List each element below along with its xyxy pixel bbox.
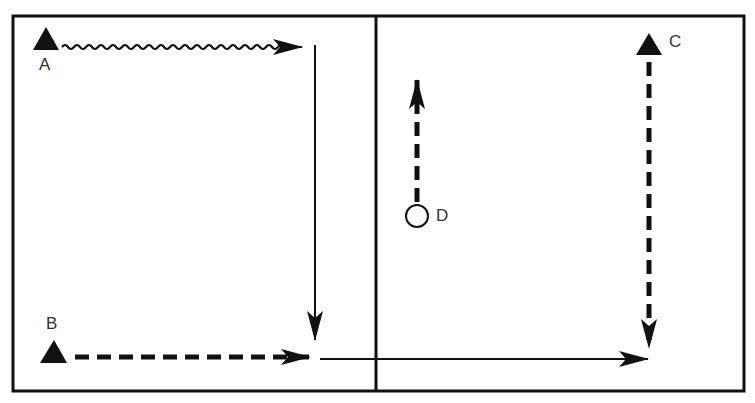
player-d-circle [406, 205, 428, 227]
player-a-triangle [33, 27, 59, 50]
court-diagram [0, 0, 755, 403]
label-c: C [669, 32, 681, 52]
label-b: B [46, 314, 57, 334]
label-d: D [436, 206, 448, 226]
label-a: A [39, 55, 50, 75]
dribble-path-a [62, 45, 302, 49]
player-b-triangle [40, 340, 67, 363]
player-c-triangle [636, 33, 662, 55]
court-boundary [13, 16, 744, 391]
